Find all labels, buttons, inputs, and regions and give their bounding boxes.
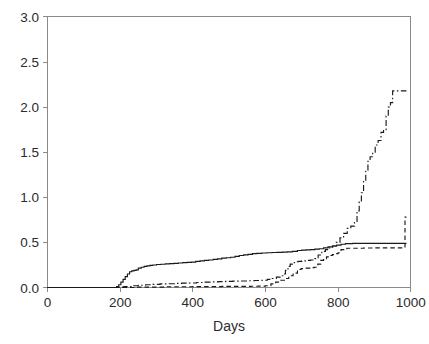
x-tick-label: 1000 [396, 295, 426, 310]
x-tick-label: 800 [327, 295, 350, 310]
chart-figure: 0.0 0.5 1.0 1.5 2.0 2.5 3.0 0 200 400 60… [0, 0, 429, 344]
x-axis-title: Days [213, 318, 245, 334]
y-tick-label: 1.5 [20, 145, 39, 160]
y-axis-tick-labels: 0.0 0.5 1.0 1.5 2.0 2.5 3.0 [20, 10, 39, 296]
x-tick-label: 200 [109, 295, 132, 310]
data-curves [48, 91, 407, 288]
y-tick-label: 3.0 [20, 10, 39, 25]
y-tick-label: 0.5 [20, 235, 39, 250]
y-tick-label: 1.0 [20, 190, 39, 205]
y-tick-label: 2.5 [20, 55, 39, 70]
x-axis-ticks [48, 288, 411, 293]
series-line-dashed [48, 217, 407, 287]
y-axis-ticks [43, 17, 48, 288]
axes-frame [48, 17, 412, 288]
x-tick-label: 400 [182, 295, 205, 310]
x-tick-label: 0 [44, 295, 52, 310]
y-tick-label: 0.0 [20, 281, 39, 296]
x-tick-label: 600 [254, 295, 277, 310]
y-tick-label: 2.0 [20, 100, 39, 115]
series-line-solid [48, 243, 407, 287]
cumulative-incidence-plot: 0.0 0.5 1.0 1.5 2.0 2.5 3.0 0 200 400 60… [0, 0, 429, 344]
x-axis-tick-labels: 0 200 400 600 800 1000 [44, 295, 426, 310]
